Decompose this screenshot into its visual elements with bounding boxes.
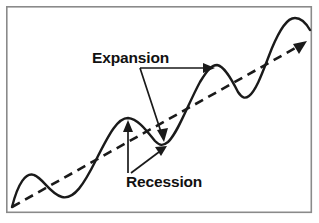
recession-label: Recession: [126, 174, 202, 190]
expansion-label: Expansion: [92, 50, 169, 66]
business-cycle-figure: Expansion Recession: [0, 0, 319, 223]
